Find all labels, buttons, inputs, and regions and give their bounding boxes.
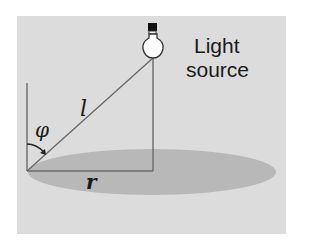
base-label-r: r [86, 170, 97, 194]
light-bulb-icon [143, 23, 163, 58]
light-source-label-line2: source [186, 58, 249, 82]
light-source-label-line1: Light [194, 34, 240, 58]
illuminated-surface [28, 149, 276, 195]
hypotenuse-label-l: l [80, 96, 87, 121]
angle-label-phi: φ [35, 118, 49, 142]
curved-arrow-icon [27, 144, 46, 155]
